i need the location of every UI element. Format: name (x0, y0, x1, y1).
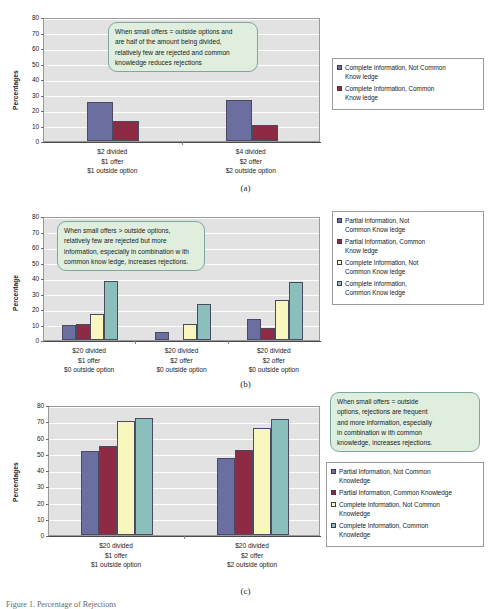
bar (183, 324, 197, 340)
bar (253, 428, 271, 535)
annotation-line: and more information, especially (337, 418, 474, 428)
x-axis-category-line: $1 outside option (48, 560, 184, 570)
legend-label-line: Complete Information, Not Common (339, 500, 440, 509)
bar (271, 419, 289, 536)
annotation-line: options, rejections are frequent (337, 407, 474, 417)
chart-b-y-axis-label: Percentage (12, 275, 19, 311)
bar (135, 418, 153, 535)
x-axis-category-label: $20 divided$2 offer$2 outside option (184, 541, 320, 570)
x-axis-group-separator (135, 341, 136, 344)
chart-legend[interactable]: Partial Information, NotCommon Know ledg… (332, 211, 484, 305)
y-axis-tick-label: 40 (23, 76, 39, 83)
x-axis-category-line: $0 outside option (43, 365, 135, 375)
x-axis-category-line: $4 divided (182, 147, 321, 157)
y-axis-tick-mark (41, 142, 44, 143)
chart-c-plot-area (48, 406, 320, 536)
y-axis-tick-mark (41, 248, 44, 249)
legend-swatch-icon (337, 218, 342, 223)
legend-label-line: Partial Information, Not Common (339, 467, 431, 476)
legend-label-line: Knowledge (339, 476, 431, 485)
legend-item-label: Complete Information,Common Know ledge (345, 279, 407, 297)
y-axis-tick-label: 50 (28, 451, 44, 458)
y-axis-tick-label: 0 (23, 138, 39, 145)
y-axis-tick-label: 30 (28, 483, 44, 490)
chart-legend[interactable]: Partial Information, Not CommonKnowledge… (326, 462, 484, 547)
x-axis-group-separator (182, 142, 183, 145)
y-axis-tick-mark (41, 310, 44, 311)
x-axis-category-line: $2 outside option (184, 560, 320, 570)
bar (155, 332, 169, 340)
legend-swatch-icon (331, 523, 336, 528)
legend-label-line: Know ledge (345, 72, 446, 81)
legend-label-line: Knowledge (339, 530, 428, 539)
x-axis-category-line: $20 divided (43, 346, 135, 356)
annotation-line: relatively few are rejected and common (115, 48, 252, 58)
legend-label-line: Common Know ledge (345, 288, 407, 297)
legend-label-line: Complete Information, Not Common (345, 63, 446, 72)
bar (87, 102, 113, 141)
gridline (49, 407, 319, 408)
y-axis-tick-mark (41, 217, 44, 218)
y-axis-tick-mark (41, 341, 44, 342)
y-axis-tick-mark (41, 295, 44, 296)
legend-item[interactable]: Complete Information, CommonKnowledge (331, 521, 479, 539)
x-axis-category-line: $2 divided (43, 147, 182, 157)
chart-legend[interactable]: Complete Information, Not CommonKnow led… (332, 58, 484, 110)
legend-label-line: Complete Information, Common (339, 521, 428, 530)
legend-label-line: Complete Information, (345, 279, 407, 288)
bar (275, 300, 289, 340)
annotation-line: When small offers > outside options, (64, 226, 199, 236)
bar (99, 446, 117, 535)
legend-item[interactable]: Partial Information, NotCommon Know ledg… (337, 216, 479, 234)
y-axis-tick-label: 80 (28, 402, 44, 409)
y-axis-tick-label: 20 (28, 500, 44, 507)
y-axis-tick-label: 70 (23, 229, 39, 236)
x-axis-category-label: $20 divided$1 offer$1 outside option (48, 541, 184, 570)
legend-item[interactable]: Complete Information, Not CommonKnowledg… (331, 500, 479, 518)
legend-item[interactable]: Complete Information, Not CommonKnow led… (337, 63, 479, 81)
legend-item[interactable]: Complete Information,Common Know ledge (337, 279, 479, 297)
y-axis-tick-mark (46, 406, 49, 407)
bar (247, 319, 261, 340)
bar (76, 324, 90, 340)
legend-swatch-icon (337, 65, 342, 70)
legend-swatch-icon (337, 281, 342, 286)
annotation-line: When small offers = outside options and (115, 27, 252, 37)
legend-swatch-icon (337, 86, 342, 91)
y-axis-tick-label: 30 (23, 92, 39, 99)
legend-item[interactable]: Partial Information, Not CommonKnowledge (331, 467, 479, 485)
y-axis-tick-mark (41, 264, 44, 265)
gridline (44, 81, 319, 82)
legend-label-line: Knowledge (339, 509, 440, 518)
y-axis-tick-mark (41, 65, 44, 66)
legend-label-line: Partial Information, Not (345, 216, 409, 225)
chart-panel-c: Percentages 01020304050607080$20 divided… (0, 390, 491, 590)
chart-b-x-axis (43, 341, 321, 342)
legend-swatch-icon (337, 260, 342, 265)
legend-swatch-icon (337, 239, 342, 244)
legend-item[interactable]: Complete Information, NotCommon Know led… (337, 258, 479, 276)
legend-label-line: Complete Information, Common (345, 84, 434, 93)
x-axis-category-line: $1 outside option (43, 166, 182, 176)
x-axis-category-line: $0 outside option (135, 365, 227, 375)
bar (235, 450, 253, 535)
x-axis-category-line: $2 offer (228, 356, 320, 366)
bar (117, 421, 135, 535)
legend-item[interactable]: Partial Information, Common Knowledge (331, 488, 479, 497)
y-axis-tick-label: 0 (28, 532, 44, 539)
gridline (44, 280, 319, 281)
x-axis-category-line: $0 outside option (228, 365, 320, 375)
gridline (44, 127, 319, 128)
y-axis-tick-mark (46, 536, 49, 537)
legend-label-line: Common Know ledge (345, 225, 409, 234)
legend-item-label: Complete Information, NotCommon Know led… (345, 258, 418, 276)
y-axis-tick-label: 10 (23, 322, 39, 329)
y-axis-tick-mark (46, 504, 49, 505)
legend-item[interactable]: Partial Information, CommonKnow ledge (337, 237, 479, 255)
y-axis-tick-label: 70 (28, 418, 44, 425)
legend-item[interactable]: Complete Information, CommonKnow ledge (337, 84, 479, 102)
x-axis-category-line: $20 divided (184, 541, 320, 551)
bar (252, 125, 278, 141)
y-axis-tick-mark (41, 127, 44, 128)
